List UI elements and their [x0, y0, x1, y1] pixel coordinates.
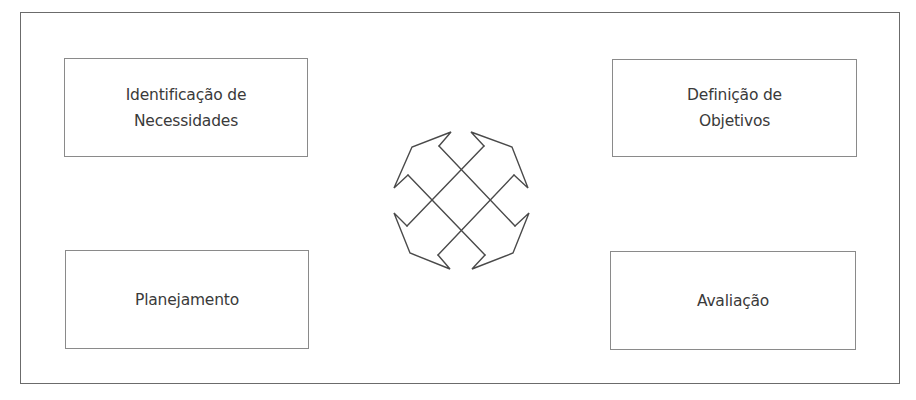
stage-label: Avaliação: [697, 288, 769, 314]
stage-box-definicao-de-objetivos: Definição de Objetivos: [612, 59, 857, 157]
stage-label: Planejamento: [135, 287, 239, 313]
stage-label: Definição de Objetivos: [687, 82, 782, 134]
stage-label: Identificação de Necessidades: [126, 82, 247, 134]
stage-box-avaliacao: Avaliação: [610, 251, 856, 350]
stage-box-planejamento: Planejamento: [65, 250, 309, 349]
stage-box-identificacao-de-necessidades: Identificação de Necessidades: [64, 58, 308, 157]
